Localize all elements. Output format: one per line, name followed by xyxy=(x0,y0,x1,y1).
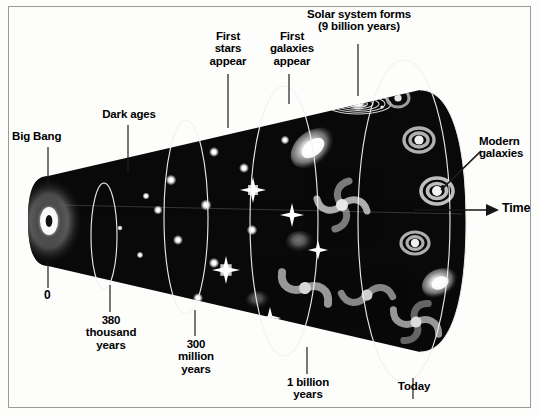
label-time-300-million: 300 million years xyxy=(156,338,236,375)
label-solar-system: Solar system forms (9 billion years) xyxy=(289,8,429,33)
figure-root: Big Bang Dark ages First stars appear Fi… xyxy=(0,0,540,417)
label-time-zero: 0 xyxy=(44,288,51,302)
label-modern-galaxies: Modern galaxies xyxy=(479,135,539,160)
galaxy xyxy=(286,231,314,253)
label-time-1-billion: 1 billion years xyxy=(268,376,348,401)
big-bang-flash xyxy=(15,177,83,265)
label-time-today: Today xyxy=(380,380,448,392)
label-first-stars: First stars appear xyxy=(192,30,264,67)
label-first-galaxies: First galaxies appear xyxy=(256,30,328,67)
label-time-380-thousand: 380 thousand years xyxy=(70,314,152,351)
label-time-axis: Time xyxy=(502,202,540,214)
modern-galaxy xyxy=(404,128,434,152)
label-dark-ages: Dark ages xyxy=(90,108,168,120)
label-big-bang: Big Bang xyxy=(12,130,102,142)
